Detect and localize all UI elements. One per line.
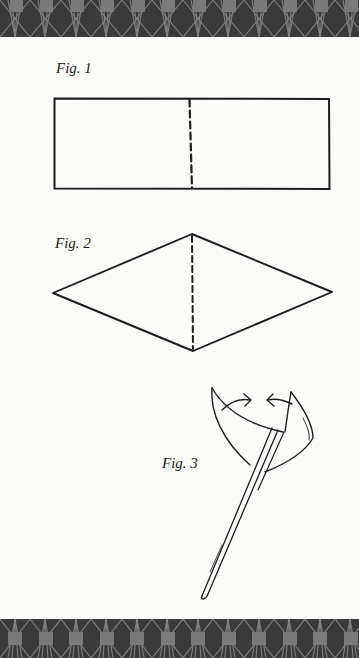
- fig3-cone-drawing: [202, 388, 313, 599]
- fig2-diamond-drawing: [53, 234, 332, 351]
- fig1-rectangle-drawing: [55, 99, 330, 190]
- decorative-footer-band: [0, 619, 359, 658]
- fig1-label: Fig. 1: [56, 60, 92, 77]
- fig3-label: Fig. 3: [162, 455, 198, 472]
- folding-diagrams: [0, 0, 359, 658]
- art-deco-pattern-icon: [0, 619, 359, 658]
- fig2-label: Fig. 2: [55, 235, 91, 252]
